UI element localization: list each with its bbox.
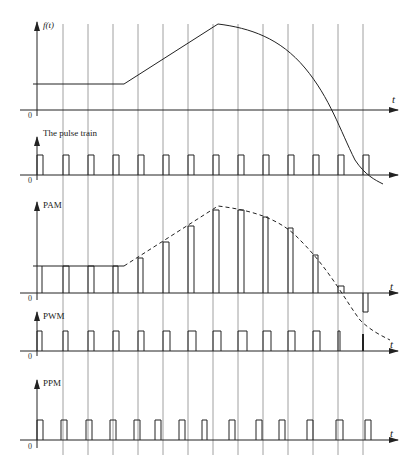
- ppm-origin-label: 0: [28, 442, 32, 451]
- ppm-label: PPM: [43, 378, 61, 388]
- pulse-modulation-diagram: [0, 0, 416, 471]
- signal-axis-label: f(t): [43, 20, 54, 30]
- ppm-time-label: t: [390, 427, 393, 439]
- pam-panel: [20, 202, 398, 340]
- pwm-label: PWM: [43, 311, 65, 321]
- pam-label: PAM: [43, 200, 62, 210]
- pwm-origin-label: 0: [28, 352, 32, 361]
- signal-origin-label: 0: [28, 111, 32, 120]
- signal-time-label: t: [392, 93, 395, 105]
- pwm-panel: [20, 312, 398, 356]
- pulse-train-label: The pulse train: [43, 128, 97, 138]
- pulse-train-origin-label: 0: [28, 176, 32, 185]
- pulse-train-panel: [20, 137, 398, 180]
- pwm-time-label: t: [390, 338, 393, 350]
- ppm-panel: [20, 380, 398, 448]
- pam-origin-label: 0: [28, 294, 32, 303]
- signal-panel: [20, 22, 398, 184]
- pam-time-label: t: [390, 280, 393, 292]
